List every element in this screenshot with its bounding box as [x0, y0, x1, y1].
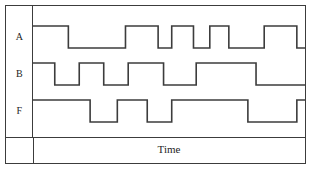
waveform-path-a	[33, 26, 305, 48]
waveform-plot-area	[33, 6, 305, 137]
waveform-svg	[33, 6, 305, 137]
signal-label-a: A	[6, 31, 33, 42]
time-axis-row: Time	[6, 137, 305, 163]
timing-diagram: A B F Time	[0, 0, 313, 170]
diagram-frame: A B F Time	[5, 5, 306, 164]
waveform-a	[33, 26, 305, 48]
signal-label-column: A B F	[6, 6, 33, 137]
waveform-f	[33, 100, 305, 122]
signal-label-f: F	[6, 105, 33, 116]
waveform-b	[33, 63, 305, 85]
signal-label-b: B	[6, 68, 33, 79]
time-axis-label: Time	[33, 143, 305, 155]
waveform-path-f	[33, 100, 305, 122]
waveform-path-b	[33, 63, 305, 85]
